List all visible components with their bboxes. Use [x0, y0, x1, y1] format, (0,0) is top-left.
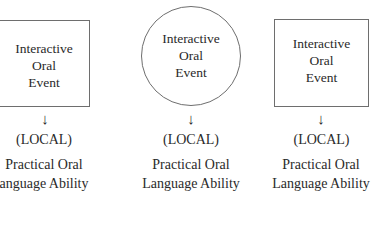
event-label-left: Interactive Oral Event — [0, 40, 88, 91]
down-arrow-icon: ↓ — [311, 112, 331, 127]
ability-line: Language Ability — [261, 174, 377, 193]
ability-label-left: Practical Oral anguage Ability — [0, 155, 98, 193]
ability-label-middle: Practical Oral Language Ability — [131, 155, 251, 193]
event-label-line: Oral — [274, 52, 369, 69]
event-label-line: Event — [274, 69, 369, 86]
event-label-line: Interactive — [274, 35, 369, 52]
ability-line: Practical Oral — [261, 155, 377, 174]
event-label-line: Interactive — [141, 30, 241, 47]
event-label-line: Oral — [141, 47, 241, 64]
ability-line: Practical Oral — [131, 155, 251, 174]
down-arrow-icon: ↓ — [35, 112, 55, 127]
context-label-left: (LOCAL) — [0, 132, 88, 148]
ability-line: Language Ability — [131, 174, 251, 193]
event-label-line: Oral — [0, 57, 88, 74]
down-arrow-icon: ↓ — [181, 112, 201, 127]
event-label-line: Event — [0, 74, 88, 91]
event-label-middle: Interactive Oral Event — [141, 30, 241, 81]
context-label-right: (LOCAL) — [274, 132, 369, 148]
ability-label-right: Practical Oral Language Ability — [261, 155, 377, 193]
event-label-right: Interactive Oral Event — [274, 35, 369, 86]
ability-line: anguage Ability — [0, 174, 98, 193]
event-label-line: Interactive — [0, 40, 88, 57]
event-label-line: Event — [141, 64, 241, 81]
ability-line: Practical Oral — [0, 155, 98, 174]
context-label-middle: (LOCAL) — [141, 132, 241, 148]
